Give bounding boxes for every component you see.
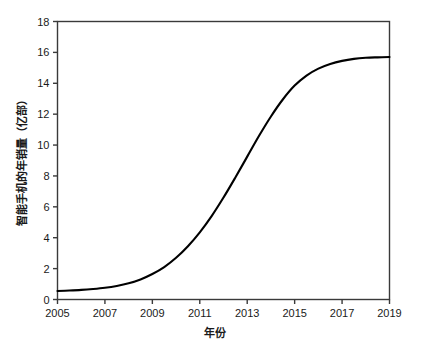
chart-background <box>0 0 430 349</box>
x-tick-label: 2005 <box>45 307 69 319</box>
y-axis-title: 智能手机的年销量（亿部） <box>15 94 29 226</box>
smartphone-sales-line-chart: 024681012141618 200520072009201120132015… <box>0 0 430 349</box>
y-tick-label: 6 <box>43 201 49 213</box>
x-tick-label: 2007 <box>93 307 117 319</box>
chart-figure: 024681012141618 200520072009201120132015… <box>0 0 430 349</box>
x-axis-title: 年份 <box>204 326 227 340</box>
x-tick-label: 2011 <box>188 307 212 319</box>
x-tick-label: 2015 <box>282 307 306 319</box>
y-tick-label: 12 <box>37 108 49 120</box>
x-tick-label: 2019 <box>377 307 401 319</box>
y-tick-label: 16 <box>37 46 49 58</box>
y-tick-label: 4 <box>43 232 49 244</box>
y-tick-label: 2 <box>43 263 49 275</box>
y-tick-label: 14 <box>37 77 49 89</box>
x-tick-label: 2017 <box>330 307 354 319</box>
y-tick-label: 0 <box>43 294 49 306</box>
y-tick-label: 10 <box>37 139 49 151</box>
x-tick-label: 2013 <box>235 307 259 319</box>
y-tick-label: 8 <box>43 170 49 182</box>
y-tick-label: 18 <box>37 16 49 28</box>
x-tick-label: 2009 <box>140 307 164 319</box>
